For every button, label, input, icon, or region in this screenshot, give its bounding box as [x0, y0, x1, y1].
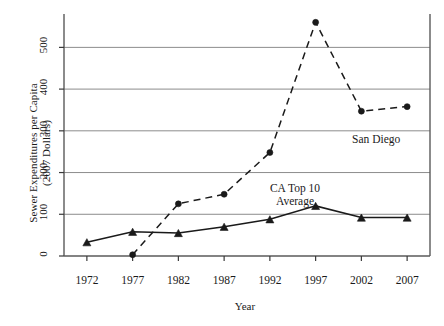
y-tick-label-200: 200 — [37, 151, 49, 191]
x-tick-label-1992: 1992 — [247, 274, 293, 286]
series-label-ca-top-10-average: CA Top 10 Average — [243, 182, 347, 208]
y-tick-label-300: 300 — [37, 109, 49, 149]
data-point-san-diego-6 — [404, 104, 410, 110]
x-tick-label-1997: 1997 — [293, 274, 339, 286]
series-line-ca-top-10-average — [87, 206, 407, 242]
chart-figure: Sewer Expenditures per Capita (2007 Doll… — [0, 0, 444, 326]
data-point-san-diego-5 — [358, 108, 364, 114]
data-point-san-diego-3 — [267, 150, 273, 156]
data-point-san-diego-2 — [221, 191, 227, 197]
series-label-san-diego: San Diego — [352, 133, 428, 146]
data-point-san-diego-4 — [313, 19, 319, 25]
x-tick-label-1982: 1982 — [155, 274, 201, 286]
y-tick-label-400: 400 — [37, 67, 49, 107]
data-point-san-diego-1 — [175, 201, 181, 207]
x-tick-label-1977: 1977 — [110, 274, 156, 286]
data-point-san-diego-0 — [130, 252, 136, 258]
y-tick-label-100: 100 — [37, 192, 49, 232]
x-tick-label-2007: 2007 — [384, 274, 430, 286]
x-tick-label-1972: 1972 — [64, 274, 110, 286]
x-tick-label-1987: 1987 — [201, 274, 247, 286]
y-tick-label-500: 500 — [37, 25, 49, 65]
x-axis-title: Year — [60, 300, 430, 312]
x-tick-label-2002: 2002 — [338, 274, 384, 286]
y-tick-label-0: 0 — [37, 234, 49, 274]
